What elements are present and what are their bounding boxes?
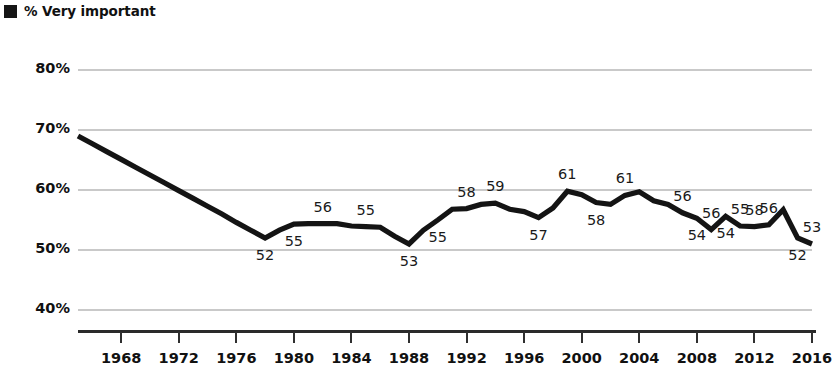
data-point-label: 55 [274, 233, 314, 249]
data-point-label: 55 [346, 202, 386, 218]
data-point-label: 59 [475, 178, 515, 194]
data-point-label: 56 [749, 200, 789, 216]
data-point-label: 61 [547, 166, 587, 182]
data-point-label: 56 [303, 199, 343, 215]
data-point-label: 61 [605, 170, 645, 186]
data-point-label: 53 [792, 219, 832, 235]
data-point-label: 55 [418, 229, 458, 245]
data-point-label: 52 [245, 247, 285, 263]
data-point-label: 58 [576, 212, 616, 228]
data-point-label: 52 [778, 247, 818, 263]
data-point-label: 57 [519, 227, 559, 243]
data-point-label: 53 [389, 253, 429, 269]
data-point-label: 56 [662, 188, 702, 204]
data-point-label: 54 [706, 225, 746, 241]
